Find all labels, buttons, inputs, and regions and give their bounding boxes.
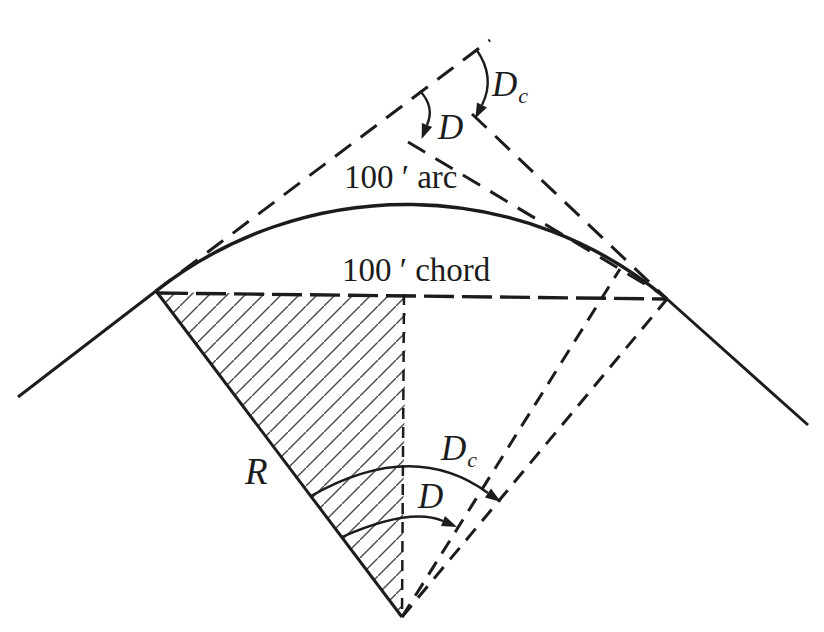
label-arc-length: 100 ′ arc [344, 159, 458, 195]
angle-arrow-dc-top [476, 49, 488, 105]
label-dc-bottom: Dc [440, 429, 477, 472]
chord-endpoint-tangent-line [472, 114, 667, 299]
angle-arrow-d-top [420, 91, 430, 125]
forward-tangent-line [667, 299, 808, 425]
label-dc-top: Dc [491, 65, 528, 108]
back-tangent-line [18, 291, 156, 397]
angle-arrow-d-bottom-head [441, 516, 457, 527]
scanned-figure-page: Dc D 100 ′ arc 100 ′ chord R Dc D [0, 0, 824, 632]
radius-to-arc-endpoint-line [402, 269, 620, 617]
label-radius: R [244, 451, 268, 492]
angle-arrow-d-top-head [422, 123, 433, 139]
angle-arrow-dc-bottom-head [485, 489, 501, 503]
curve-degree-diagram: Dc D 100 ′ arc 100 ′ chord R Dc D [0, 0, 824, 632]
label-chord-length: 100 ′ chord [342, 252, 491, 288]
label-d-top: D [437, 108, 463, 147]
label-d-bottom: D [417, 477, 443, 516]
angle-arrow-dc-top-head [475, 103, 487, 119]
